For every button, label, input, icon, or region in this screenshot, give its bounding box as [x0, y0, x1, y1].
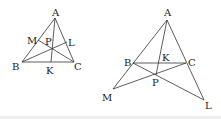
right-segment-bl [133, 63, 204, 100]
right-label-l: L [205, 100, 212, 111]
bottom-edge [0, 116, 221, 119]
right-diagram: A B C K L M P [102, 7, 212, 111]
right-segment-ac-extended [167, 20, 204, 100]
right-label-p: P [152, 77, 159, 88]
left-label-b: B [12, 61, 19, 72]
left-label-c: C [74, 61, 82, 72]
right-label-m: M [102, 92, 112, 103]
left-diagram: A B C K L M P [12, 7, 82, 76]
right-segment-ap [156, 20, 167, 75]
left-label-k: K [46, 65, 54, 76]
left-label-p: P [45, 36, 52, 47]
right-label-a: A [163, 7, 172, 18]
geometry-figure: A B C K L M P A B C K L M P [0, 0, 221, 119]
right-segment-ab-extended [113, 20, 167, 89]
right-label-c: C [188, 57, 196, 68]
left-label-l: L [68, 37, 75, 48]
right-label-b: B [124, 57, 131, 68]
right-label-k: K [162, 52, 170, 63]
left-label-a: A [51, 7, 60, 18]
left-label-m: M [27, 35, 37, 46]
